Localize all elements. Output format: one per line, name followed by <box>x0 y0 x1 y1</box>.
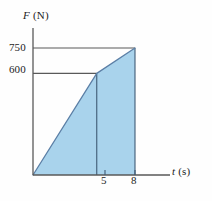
xtick-label-5: 5 <box>101 174 107 186</box>
x-axis-label: t (s) <box>172 165 190 177</box>
y-axis-label-unit: (N) <box>33 9 49 21</box>
area-under-curve <box>33 48 135 175</box>
x-axis-label-unit: (s) <box>178 165 190 177</box>
xtick-label-8: 8 <box>131 174 137 186</box>
x-axis-label-symbol: t <box>172 165 175 177</box>
y-axis-label: F (N) <box>23 9 49 21</box>
ytick-label-600: 600 <box>9 63 26 75</box>
ytick-label-750: 750 <box>9 41 26 53</box>
y-axis-label-symbol: F <box>23 9 30 21</box>
force-time-graph-figure: F (N) t (s) 750 600 5 8 <box>0 0 212 201</box>
